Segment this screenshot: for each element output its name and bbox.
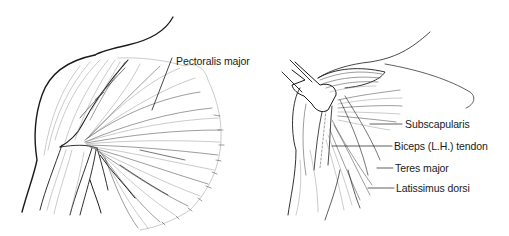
pectoralis-fibers	[80, 64, 224, 228]
shoulder-anatomy-figure: Pectoralis major Subscapularis Biceps (L…	[0, 0, 509, 236]
teres-latissimus-fibers	[296, 120, 372, 220]
label-subscapularis: Subscapularis	[405, 119, 470, 130]
arm-fibers	[47, 150, 84, 214]
pectoralis-major-leader-line	[152, 58, 172, 110]
label-biceps-lh-tendon: Biceps (L.H.) tendon	[394, 141, 488, 152]
subscapularis-fibers	[338, 90, 402, 175]
label-teres-major: Teres major	[395, 163, 449, 174]
label-pectoralis-major: Pectoralis major	[176, 56, 250, 67]
superior-muscle-fibers	[320, 72, 382, 92]
left-shoulder-drawing	[22, 17, 224, 230]
label-latissimus-dorsi: Latissimus dorsi	[396, 183, 470, 194]
